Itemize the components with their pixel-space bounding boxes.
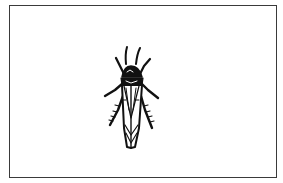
leafhopper-illustration [0,0,283,183]
leafhopper-icon [105,47,158,148]
